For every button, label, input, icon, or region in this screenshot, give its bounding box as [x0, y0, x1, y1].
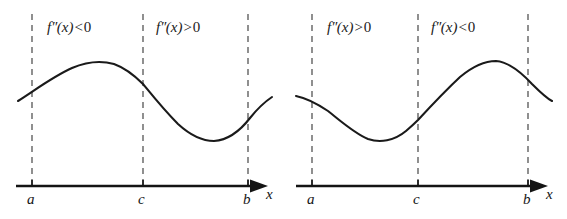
region-label-right: f′′(x)>0: [156, 20, 200, 35]
function-curve: [18, 62, 272, 141]
axis-tick-label-b: b: [243, 192, 251, 207]
label-value: 0: [364, 19, 372, 35]
axis-tick-label-c: c: [413, 192, 420, 207]
right-panel: f′′(x)>0 f′′(x)<0 a c b x: [284, 0, 567, 219]
axis-tick-label-a: a: [307, 192, 315, 207]
region-label-left: f′′(x)<0: [47, 20, 91, 35]
axis-tick-label-b: b: [523, 192, 531, 207]
label-relation: <: [457, 19, 467, 35]
concavity-figure: f′′(x)<0 f′′(x)>0 a c b x: [0, 0, 567, 219]
label-value: 0: [193, 19, 201, 35]
label-value: 0: [468, 19, 476, 35]
label-argument: (x): [337, 19, 354, 35]
label-value: 0: [84, 19, 92, 35]
axis-tick-label-a: a: [27, 192, 35, 207]
function-curve: [296, 61, 552, 141]
label-argument: (x): [57, 19, 74, 35]
label-relation: >: [182, 19, 192, 35]
x-axis-label: x: [546, 187, 553, 202]
region-label-left: f′′(x)>0: [327, 20, 371, 35]
x-axis-label: x: [266, 187, 273, 202]
label-argument: (x): [441, 19, 458, 35]
label-argument: (x): [166, 19, 183, 35]
left-panel: f′′(x)<0 f′′(x)>0 a c b x: [0, 0, 284, 219]
left-panel-plot: [0, 0, 284, 219]
label-relation: >: [353, 19, 363, 35]
axis-tick-label-c: c: [138, 192, 145, 207]
region-label-right: f′′(x)<0: [431, 20, 475, 35]
label-relation: <: [73, 19, 83, 35]
